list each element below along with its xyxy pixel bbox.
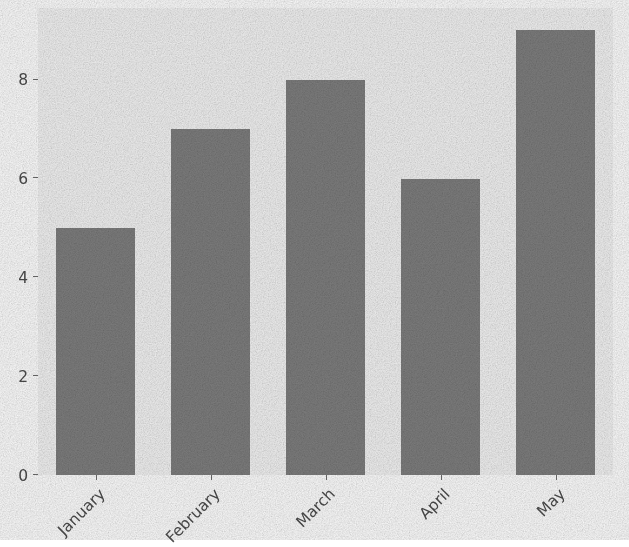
x-tick-mark-april	[441, 475, 442, 480]
y-tick-mark	[33, 276, 38, 277]
y-tick-mark	[33, 79, 38, 80]
bar-february	[171, 129, 249, 475]
y-tick-6: 6	[18, 169, 38, 187]
y-tick-label: 2	[18, 368, 28, 386]
y-axis: 02468	[0, 0, 38, 540]
x-tick-mark-january	[96, 475, 97, 480]
y-tick-label: 4	[18, 269, 28, 287]
y-tick-2: 2	[18, 367, 38, 385]
plot-area	[38, 8, 613, 475]
y-tick-8: 8	[18, 71, 38, 89]
bar-march	[286, 80, 364, 475]
y-tick-mark	[33, 177, 38, 178]
bar-january	[56, 228, 134, 475]
x-tick-mark-may	[556, 475, 557, 480]
x-tick-mark-march	[326, 475, 327, 480]
y-tick-label: 6	[18, 170, 28, 188]
bar-april	[401, 179, 479, 476]
x-axis: JanuaryFebruaryMarchAprilMay	[0, 475, 629, 540]
y-tick-label: 8	[18, 71, 28, 89]
bar-may	[516, 30, 594, 475]
x-tick-mark-february	[211, 475, 212, 480]
y-tick-4: 4	[18, 268, 38, 286]
x-tick-label-january: January	[0, 485, 108, 547]
y-tick-mark	[33, 375, 38, 376]
